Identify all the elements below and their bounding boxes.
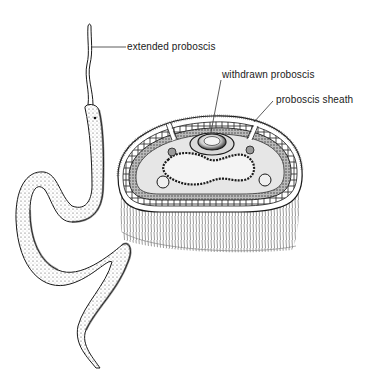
worm-body — [16, 105, 131, 369]
diagram-canvas: extended proboscis withdrawn proboscis p… — [0, 0, 377, 379]
extended-proboscis — [86, 24, 93, 105]
cross-section — [118, 116, 302, 252]
eye-spot — [94, 117, 97, 120]
label-withdrawn-proboscis: withdrawn proboscis — [222, 69, 315, 81]
leader-line-sheath — [254, 101, 273, 122]
worm-illustration — [0, 0, 377, 379]
label-proboscis-sheath: proboscis sheath — [276, 94, 353, 106]
label-extended-proboscis: extended proboscis — [127, 41, 216, 53]
